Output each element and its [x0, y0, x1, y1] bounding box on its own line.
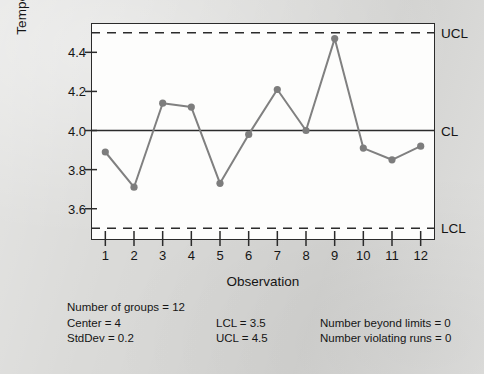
stat-stddev: StdDev = 0.2 [67, 331, 185, 347]
x-axis-tick-label: 8 [291, 248, 321, 263]
stat-number-of-groups: Number of groups = 12 [67, 300, 185, 316]
control-limit-label-cl: CL [441, 123, 458, 138]
y-axis-tick-label: 3.8 [46, 162, 86, 177]
y-axis-tick-label: 4.2 [46, 84, 86, 99]
x-axis-tick-label: 7 [262, 248, 292, 263]
stat-center: Center = 4 [67, 316, 185, 332]
control-limit-label-ucl: UCL [441, 25, 468, 40]
x-axis-tick-label: 6 [234, 248, 264, 263]
footer-column-violations: Number beyond limits = 0 Number violatin… [320, 316, 451, 347]
control-chart-figure: Temperature Loss 4.44.24.03.83.6 1234567… [0, 0, 484, 374]
y-axis-tick-label: 3.6 [46, 201, 86, 216]
x-axis-tick-label: 1 [90, 248, 120, 263]
y-axis-tick-label: 4.4 [46, 45, 86, 60]
x-axis-tick-label: 10 [348, 248, 378, 263]
stat-lcl: LCL = 3.5 [216, 316, 268, 332]
y-axis-tick-label: 4.0 [46, 123, 86, 138]
x-axis-tick-label: 11 [377, 248, 407, 263]
footer-column-groups: Number of groups = 12 Center = 4 StdDev … [67, 300, 185, 347]
chart-statistics-footer: Number of groups = 12 Center = 4 StdDev … [0, 300, 484, 362]
x-axis-tick-label: 4 [176, 248, 206, 263]
plot-area [91, 23, 435, 240]
y-axis-title: Temperature Loss [14, 0, 36, 64]
stat-ucl: UCL = 4.5 [216, 331, 268, 347]
footer-column-limits: LCL = 3.5 UCL = 4.5 [216, 316, 268, 347]
x-axis-tick-label: 12 [406, 248, 436, 263]
x-axis-title: Observation [91, 274, 435, 289]
x-axis-tick-label: 2 [119, 248, 149, 263]
x-axis-tick-label: 3 [148, 248, 178, 263]
stat-number-beyond-limits: Number beyond limits = 0 [320, 316, 451, 332]
control-limit-label-lcl: LCL [441, 221, 466, 236]
stat-number-violating-runs: Number violating runs = 0 [320, 331, 451, 347]
x-axis-tick-label: 5 [205, 248, 235, 263]
x-axis-tick-label: 9 [320, 248, 350, 263]
